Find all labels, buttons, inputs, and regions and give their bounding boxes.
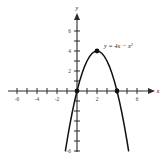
cartesian-plot: -6 -4 -2 2 6 6 4 2 -6 x y y = 4x − x2 — [0, 0, 165, 160]
marked-point-origin — [75, 89, 80, 94]
graph-figure: -6 -4 -2 2 6 6 4 2 -6 x y y = 4x − x2 — [0, 0, 165, 160]
y-tick-label: 2 — [68, 68, 71, 74]
x-tick-label: 6 — [136, 96, 139, 102]
y-axis-label: y — [75, 4, 79, 11]
x-axis-label: x — [156, 87, 160, 94]
marked-point-vertex — [95, 49, 100, 54]
y-axis-arrow-icon — [74, 13, 80, 20]
equation-exponent: 2 — [131, 42, 134, 47]
y-tick-label: 4 — [68, 48, 71, 54]
x-tick-label: -6 — [15, 96, 20, 102]
equation-rhs: 4x − x — [114, 42, 131, 49]
x-axis-arrow-icon — [148, 88, 155, 94]
x-tick-label: 2 — [96, 96, 99, 102]
y-tick-label: 6 — [68, 28, 71, 34]
x-tick-label: -4 — [35, 96, 40, 102]
equation-equals: = — [107, 42, 115, 49]
y-tick-label: -6 — [67, 148, 72, 154]
x-tick-label: -2 — [55, 96, 60, 102]
marked-point-x-intercept — [115, 89, 120, 94]
equation-label: y = 4x − x2 — [103, 42, 134, 50]
